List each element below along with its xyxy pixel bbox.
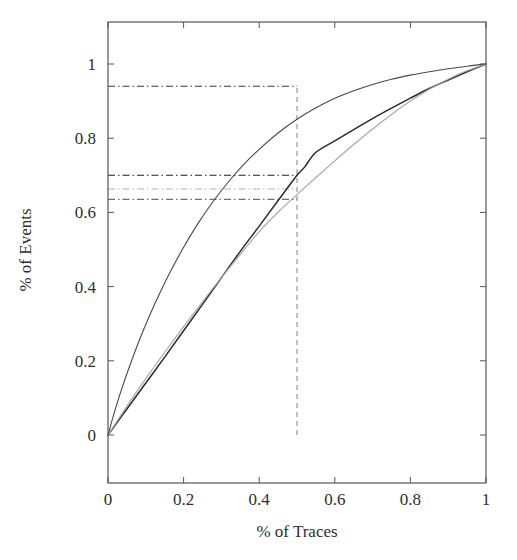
- chart-figure: 00.20.40.60.81 00.20.40.60.81 % of Trace…: [0, 0, 517, 560]
- x-tick-label-3: 0.6: [324, 491, 345, 508]
- x-tick-label-2: 0.4: [249, 491, 270, 508]
- y-tick-label-0: 0: [88, 427, 97, 444]
- x-tick-label-0: 0: [104, 491, 113, 508]
- x-tick-label-4: 0.8: [400, 491, 421, 508]
- x-axis-title: % of Traces: [256, 522, 337, 542]
- reference-lines-group: [108, 86, 297, 435]
- y-tick-label-5: 1: [88, 56, 97, 73]
- y-tick-label-2: 0.4: [75, 278, 96, 295]
- y-tick-label-1: 0.2: [75, 352, 96, 369]
- x-tick-label-5: 1: [482, 491, 491, 508]
- x-tick-label-1: 0.2: [173, 491, 194, 508]
- y-tick-label-3: 0.6: [75, 204, 96, 221]
- y-axis-title: % of Events: [16, 208, 36, 291]
- y-tick-label-4: 0.8: [75, 130, 96, 147]
